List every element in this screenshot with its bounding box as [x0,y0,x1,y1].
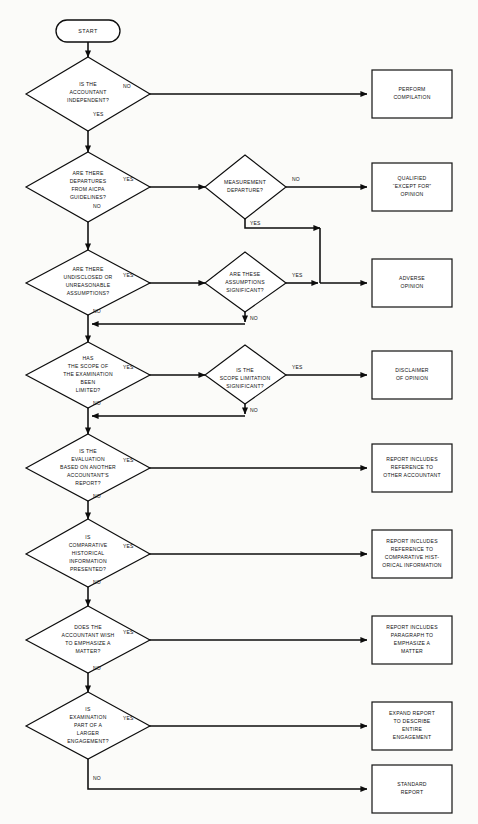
node-assumptions[interactable]: ARE THERE UNDISCLOSED OR UNREASONABLE AS… [26,250,150,315]
assumptions-sig-line-1: ARE THESE [230,271,261,277]
larger-line-3: PART OF A [74,722,102,728]
scope-sig-line-3: SIGNIFICANT? [226,383,264,389]
adverse-opinion-line-1: ADVERSE [399,275,425,281]
para-emph-line-1: REPORT INCLUDES [386,624,438,630]
label-comparative-yes: YES [123,543,134,549]
label-assumptions-sig-no: NO [250,315,258,321]
connectors [88,42,367,789]
para-emph-line-3: EMPHASIZE A [394,640,431,646]
evaluation-line-2: EVALUATION [71,456,105,462]
label-assumptions-yes: YES [123,272,134,278]
label-assumptions-sig-yes: YES [292,272,303,278]
scope-line-5: LIMITED? [76,387,101,393]
label-emphasize-yes: YES [123,629,134,635]
label-scope-sig-no: NO [250,407,258,413]
departures-line-1: ARE THERE [72,170,103,176]
comparative-line-3: HISTORICAL [72,550,105,556]
qualified-opinion-line-2: “EXCEPT FOR” [393,183,432,189]
scope-line-1: HAS [82,355,94,361]
node-larger-engagement[interactable]: IS EXAMINATION PART OF A LARGER ENGAGEME… [26,692,150,759]
independent-line-2: ACCOUNTANT [69,89,106,95]
node-comparative[interactable]: IS COMPARATIVE HISTORICAL INFORMATION PR… [26,519,150,587]
label-measurement-yes: YES [250,220,261,226]
independent-line-1: IS THE [79,81,97,87]
node-standard-report[interactable]: STANDARD REPORT [372,765,452,813]
larger-line-1: IS [85,706,91,712]
expand-report-line-1: EXPAND REPORT [389,710,435,716]
evaluation-line-5: REPORT? [75,480,101,486]
label-assumptions-no: NO [93,308,101,314]
ref-comp-line-1: REPORT INCLUDES [386,538,438,544]
comparative-line-1: IS [85,534,91,540]
label-departures-yes: YES [123,176,134,182]
emphasize-line-1: DOES THE [74,624,102,630]
perform-compilation-line-1: PERFORM [398,86,425,92]
assumptions-line-4: ASSUMPTIONS? [67,290,110,296]
scope-sig-line-1: IS THE [236,367,254,373]
adverse-opinion-line-2: OPINION [400,283,423,289]
perform-compilation-line-2: COMPILATION [393,94,430,100]
larger-line-4: LARGER [77,730,99,736]
node-disclaimer-of-opinion[interactable]: DISCLAIMER OF OPINION [372,351,452,399]
departures-line-4: GUIDELINES? [70,194,106,200]
assumptions-line-2: UNDISCLOSED OR [64,274,113,280]
label-departures-no: NO [93,203,101,209]
node-start[interactable]: START [56,20,120,42]
start-label: START [78,28,98,34]
node-paragraph-emphasize[interactable]: REPORT INCLUDES PARAGRAPH TO EMPHASIZE A… [372,616,452,664]
evaluation-line-3: BASED ON ANOTHER [60,464,116,470]
ref-comp-line-2: REFERENCE TO [391,546,433,552]
larger-line-2: EXAMINATION [69,714,106,720]
node-qualified-opinion[interactable]: QUALIFIED “EXCEPT FOR” OPINION [372,163,452,211]
measurement-line-1: MEASUREMENT [224,179,266,185]
assumptions-sig-line-2: ASSUMPTIONS [225,279,265,285]
emphasize-line-4: MATTER? [76,648,101,654]
label-larger-no: NO [93,775,101,781]
para-emph-line-2: PARAGRAPH TO [391,632,434,638]
label-scope-sig-yes: YES [292,364,303,370]
larger-line-5: ENGAGEMENT? [67,738,108,744]
node-expand-report[interactable]: EXPAND REPORT TO DESCRIBE ENTIRE ENGAGEM… [372,702,452,750]
disclaimer-line-2: OF OPINION [396,375,428,381]
node-independent[interactable]: IS THE ACCOUNTANT INDEPENDENT? [26,57,150,131]
assumptions-line-3: UNREASONABLE [66,282,111,288]
evaluation-line-4: ACCOUNTANT'S [67,472,109,478]
qualified-opinion-line-1: QUALIFIED [398,175,427,181]
para-emph-line-4: MATTER [401,648,423,654]
expand-report-line-2: TO DESCRIBE [394,718,431,724]
label-scope-yes: YES [123,364,134,370]
scope-line-4: BEEN [81,379,96,385]
label-emphasize-no: NO [93,665,101,671]
ref-other-line-1: REPORT INCLUDES [386,456,438,462]
departures-line-2: DEPARTURES [70,178,107,184]
comparative-line-2: COMPARATIVE [69,542,108,548]
label-scope-no: NO [93,400,101,406]
flowchart-canvas: START IS THE ACCOUNTANT INDEPENDENT? NO … [0,0,478,824]
standard-report-line-2: REPORT [401,789,423,795]
node-measurement[interactable]: MEASUREMENT DEPARTURE? [205,155,286,219]
node-emphasize[interactable]: DOES THE ACCOUNTANT WISH TO EMPHASIZE A … [26,606,150,673]
node-evaluation[interactable]: IS THE EVALUATION BASED ON ANOTHER ACCOU… [26,434,150,501]
assumptions-sig-line-3: SIGNIFICANT? [226,287,264,293]
node-scope-significant[interactable]: IS THE SCOPE LIMITATION SIGNIFICANT? [205,345,286,404]
edge-larger-no [88,759,367,789]
node-reference-comparative[interactable]: REPORT INCLUDES REFERENCE TO COMPARATIVE… [372,530,452,578]
departures-line-3: FROM AICPA [71,186,105,192]
node-reference-other-accountant[interactable]: REPORT INCLUDES REFERENCE TO OTHER ACCOU… [372,444,452,492]
node-perform-compilation[interactable]: PERFORM COMPILATION [372,70,452,118]
qualified-opinion-line-3: OPINION [400,191,423,197]
node-scope[interactable]: HAS THE SCOPE OF THE EXAMINATION BEEN LI… [26,342,150,408]
flowchart-svg: START IS THE ACCOUNTANT INDEPENDENT? NO … [0,0,478,824]
emphasize-line-3: TO EMPHASIZE A [65,640,111,646]
label-measurement-no: NO [292,176,300,182]
comparative-line-4: INFORMATION [69,558,107,564]
node-assumptions-significant[interactable]: ARE THESE ASSUMPTIONS SIGNIFICANT? [205,252,286,312]
measurement-line-2: DEPARTURE? [227,187,263,193]
node-departures[interactable]: ARE THERE DEPARTURES FROM AICPA GUIDELIN… [26,152,150,222]
node-adverse-opinion[interactable]: ADVERSE OPINION [372,259,452,307]
label-independent-no: NO [123,83,131,89]
expand-report-line-3: ENTIRE [402,726,422,732]
assumptions-line-1: ARE THERE [72,266,103,272]
independent-line-3: INDEPENDENT? [67,97,109,103]
ref-other-line-2: REFERENCE TO [391,464,433,470]
